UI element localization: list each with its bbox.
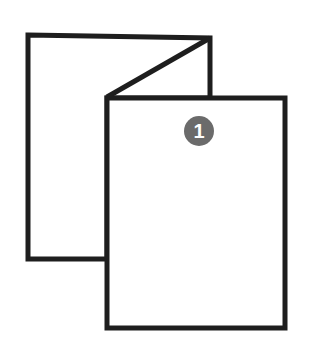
folded-page-diagram: 1: [0, 0, 309, 349]
page-number-badge: 1: [184, 116, 214, 146]
badge-number: 1: [193, 120, 204, 142]
